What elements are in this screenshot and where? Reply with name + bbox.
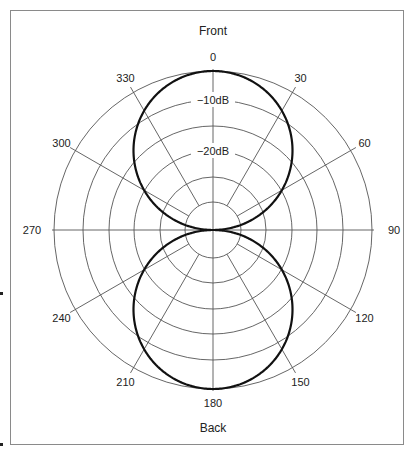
angle-label-30: 30: [294, 72, 306, 84]
angle-label-300: 300: [52, 137, 70, 149]
angle-label-0: 0: [210, 51, 216, 63]
front-label: Front: [199, 24, 228, 38]
angle-label-180: 180: [204, 397, 222, 409]
angle-label-90: 90: [388, 224, 400, 236]
ring-label: −10dB: [197, 94, 229, 106]
angle-label-210: 210: [116, 376, 134, 388]
angle-label-120: 120: [355, 312, 373, 324]
ring-label: −20dB: [197, 145, 229, 157]
angle-label-60: 60: [358, 137, 370, 149]
angle-label-150: 150: [291, 376, 309, 388]
angle-label-330: 330: [116, 72, 134, 84]
angle-label-240: 240: [52, 312, 70, 324]
polar-pattern-diagram: −10dB−20dB 03060901201501802102402703003…: [0, 0, 410, 451]
back-label: Back: [200, 421, 228, 435]
angle-label-270: 270: [23, 224, 41, 236]
